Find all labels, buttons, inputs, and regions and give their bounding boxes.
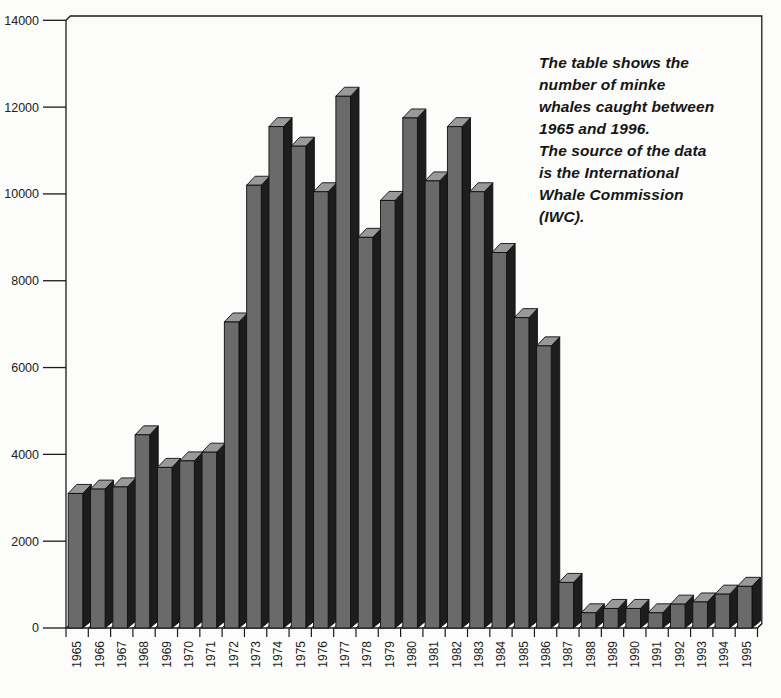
bar-1978-side bbox=[373, 228, 382, 628]
bar-1983-side bbox=[484, 183, 493, 628]
bar-1974 bbox=[269, 127, 284, 628]
x-axis-tick-label: 1979 bbox=[383, 641, 397, 668]
bar-1992 bbox=[670, 604, 685, 628]
bar-1994 bbox=[715, 594, 730, 628]
x-axis-tick-label: 1970 bbox=[182, 641, 196, 668]
bar-1973 bbox=[247, 185, 262, 628]
x-axis-tick-label: 1985 bbox=[517, 641, 531, 668]
x-axis-tick-label: 1967 bbox=[115, 641, 129, 668]
x-axis-tick-label: 1978 bbox=[360, 641, 374, 668]
x-axis-tick-label: 1983 bbox=[472, 641, 486, 668]
bar-1995 bbox=[737, 586, 752, 628]
x-axis-tick-label: 1974 bbox=[271, 641, 285, 668]
bar-1985-side bbox=[529, 309, 538, 628]
bar-1968-side bbox=[150, 426, 159, 628]
bar-1977 bbox=[336, 96, 351, 628]
x-axis-tick-label: 1965 bbox=[70, 641, 84, 668]
bar-1970-side bbox=[194, 452, 203, 628]
bar-1973-side bbox=[261, 176, 270, 628]
bar-1971 bbox=[202, 452, 217, 628]
bar-1987 bbox=[559, 582, 574, 628]
x-axis-tick-label: 1990 bbox=[628, 641, 642, 668]
bar-1979-side bbox=[395, 191, 404, 628]
x-axis-tick-label: 1994 bbox=[717, 641, 731, 668]
y-axis-tick-label: 0 bbox=[32, 621, 39, 635]
x-axis-tick-label: 1976 bbox=[316, 641, 330, 668]
bar-1986-side bbox=[551, 337, 560, 628]
bar-1984-side bbox=[507, 244, 515, 628]
bar-1971-side bbox=[217, 443, 226, 628]
bar-1989 bbox=[604, 608, 619, 628]
x-axis-tick-label: 1988 bbox=[584, 641, 598, 668]
y-axis-tick-label: 6000 bbox=[11, 361, 39, 375]
annotation-line-2: number of minke bbox=[539, 74, 751, 96]
bar-1986 bbox=[537, 346, 552, 628]
annotation-line-3: whales caught between bbox=[539, 96, 751, 118]
bar-1972-side bbox=[239, 313, 248, 628]
bar-1982 bbox=[447, 127, 462, 628]
x-axis-tick-label: 1995 bbox=[740, 641, 754, 668]
bar-1965 bbox=[68, 493, 83, 628]
y-axis-tick-label: 4000 bbox=[11, 448, 39, 462]
x-axis-tick-label: 1991 bbox=[650, 641, 664, 668]
bar-1991 bbox=[648, 613, 663, 628]
x-axis-tick-label: 1984 bbox=[494, 641, 508, 668]
bar-1975 bbox=[291, 146, 306, 628]
y-axis-tick-label: 12000 bbox=[4, 101, 39, 115]
bar-1970 bbox=[180, 461, 195, 628]
bar-1980 bbox=[403, 118, 418, 628]
bar-1968 bbox=[135, 435, 150, 628]
x-axis-tick-label: 1966 bbox=[93, 641, 107, 668]
bar-1965-side bbox=[83, 484, 92, 628]
y-axis-tick-label: 8000 bbox=[11, 274, 39, 288]
bar-1982-side bbox=[462, 118, 471, 628]
bar-1990 bbox=[626, 608, 641, 628]
x-axis-tick-label: 1986 bbox=[539, 641, 553, 668]
x-axis-tick-label: 1977 bbox=[338, 641, 352, 668]
y-axis-tick-label: 14000 bbox=[4, 14, 39, 28]
x-axis-tick-label: 1981 bbox=[427, 641, 441, 668]
x-axis-tick-label: 1989 bbox=[606, 641, 620, 668]
bar-1966 bbox=[91, 489, 106, 628]
annotation-line-4: 1965 and 1996. bbox=[539, 118, 751, 140]
bar-1976-side bbox=[328, 183, 337, 628]
bar-1981-side bbox=[440, 172, 449, 628]
x-axis-tick-label: 1972 bbox=[227, 641, 241, 668]
x-axis-tick-label: 1969 bbox=[160, 641, 174, 668]
bar-1980-side bbox=[417, 109, 426, 628]
bar-1969 bbox=[157, 467, 172, 628]
x-axis-tick-label: 1987 bbox=[561, 641, 575, 668]
x-axis-tick-label: 1992 bbox=[673, 641, 687, 668]
bar-1967-side bbox=[127, 478, 136, 628]
bar-1972 bbox=[224, 322, 239, 628]
x-axis-tick-label: 1993 bbox=[695, 641, 709, 668]
bar-1967 bbox=[113, 487, 128, 628]
bar-1979 bbox=[380, 200, 395, 628]
x-axis-tick-label: 1975 bbox=[294, 641, 308, 668]
bar-1978 bbox=[358, 237, 373, 628]
annotation-line-1: The table shows the bbox=[539, 52, 751, 74]
x-axis-tick-label: 1982 bbox=[450, 641, 464, 668]
bar-1969-side bbox=[172, 458, 181, 628]
bar-1974-side bbox=[284, 118, 293, 628]
annotation-line-5: The source of the data bbox=[539, 140, 751, 162]
annotation-line-8: (IWC). bbox=[539, 206, 751, 228]
chart-annotation: The table shows the number of minke whal… bbox=[539, 52, 751, 228]
bar-1984 bbox=[492, 253, 507, 628]
x-axis-tick-label: 1973 bbox=[249, 641, 263, 668]
bar-1993 bbox=[693, 602, 708, 628]
bar-1976 bbox=[314, 192, 329, 628]
y-axis-tick-label: 10000 bbox=[4, 187, 39, 201]
bar-1975-side bbox=[306, 137, 315, 628]
annotation-line-6: is the International bbox=[539, 162, 751, 184]
bar-1966-side bbox=[105, 480, 114, 628]
bar-1988 bbox=[581, 613, 596, 628]
annotation-line-7: Whale Commission bbox=[539, 184, 751, 206]
y-axis-tick-label: 2000 bbox=[11, 535, 39, 549]
scanned-chart-page: 0200040006000800010000120001400019651966… bbox=[0, 0, 781, 698]
bar-1977-side bbox=[350, 87, 359, 628]
x-axis-tick-label: 1980 bbox=[405, 641, 419, 668]
bar-1983 bbox=[470, 192, 485, 628]
bar-1985 bbox=[514, 318, 529, 628]
x-axis-tick-label: 1968 bbox=[137, 641, 151, 668]
